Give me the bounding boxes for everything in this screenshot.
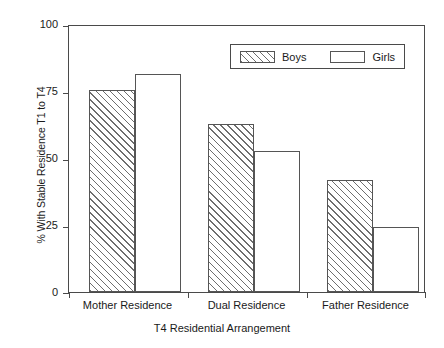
y-tick-label-100: 100 (18, 19, 58, 30)
legend-swatch-girls (330, 51, 365, 63)
x-tick-mark-4 (425, 292, 426, 298)
bar-chart: % With Stable Residence T1 to T4 100 75 … (0, 0, 444, 348)
y-tick-mark-25 (63, 227, 69, 228)
x-category-label-father: Father Residence (306, 299, 425, 311)
bar-girls-mother-residence (135, 74, 181, 292)
bar-girls-father-residence (373, 227, 419, 292)
legend-label-boys: Boys (282, 51, 306, 63)
legend-label-girls: Girls (372, 51, 395, 63)
bar-boys-mother-residence (89, 90, 135, 292)
y-tick-label-0: 0 (18, 287, 58, 298)
y-tick-mark-100 (63, 26, 69, 27)
x-axis-title: T4 Residential Arrangement (0, 322, 444, 334)
legend-swatch-boys (240, 51, 275, 63)
x-category-label-dual: Dual Residence (187, 299, 306, 311)
y-tick-label-25: 25 (18, 220, 58, 231)
y-tick-label-50: 50 (18, 153, 58, 164)
x-category-label-mother: Mother Residence (68, 299, 187, 311)
bar-boys-father-residence (327, 180, 373, 292)
x-tick-mark-3 (307, 292, 308, 298)
y-axis-title: % With Stable Residence T1 to T4 (35, 30, 47, 300)
legend: Boys Girls (230, 44, 405, 69)
y-tick-label-75: 75 (18, 86, 58, 97)
bar-girls-dual-residence (254, 151, 300, 292)
y-tick-mark-50 (63, 160, 69, 161)
x-tick-mark-2 (188, 292, 189, 298)
x-tick-mark-1 (69, 292, 70, 298)
y-tick-mark-75 (63, 93, 69, 94)
bar-boys-dual-residence (208, 124, 254, 292)
